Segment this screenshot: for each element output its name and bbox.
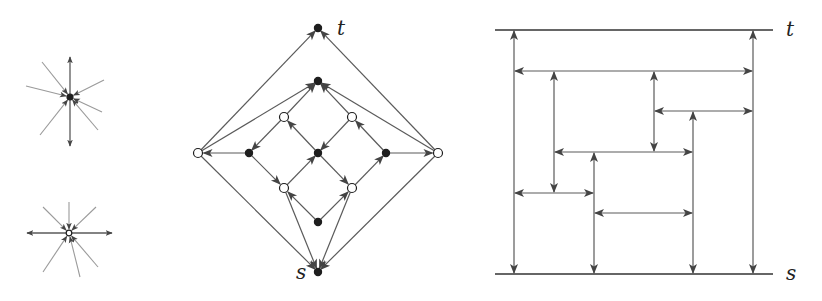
right-segment-diagram: ts (495, 17, 796, 285)
open-node (66, 230, 72, 236)
in-edge (72, 207, 96, 230)
in-edge (74, 80, 104, 95)
in-edge (72, 236, 98, 267)
node-t (314, 24, 321, 31)
filled-node (67, 94, 73, 100)
in-edge (70, 237, 80, 277)
edge-lr-to-s (320, 188, 352, 268)
node-top (314, 77, 321, 84)
star-open-center (27, 202, 112, 277)
edge-b-to-lr (318, 192, 348, 222)
in-edge (74, 99, 102, 112)
in-edge (40, 100, 68, 135)
in-edge (43, 207, 66, 230)
label-t-right: t (786, 17, 795, 41)
edge-lo-to-s (198, 153, 315, 269)
node-lo (194, 149, 203, 158)
node-lr (348, 184, 357, 193)
node-lf (245, 149, 252, 156)
node-b (314, 218, 321, 225)
in-edge (26, 86, 66, 96)
label-t: t (337, 16, 346, 40)
label-s-right: s (786, 261, 796, 285)
node-ul (280, 113, 289, 122)
edge-c-to-lr (318, 153, 348, 184)
edge-ur-to-c (321, 117, 352, 150)
node-ur (348, 113, 357, 122)
edge-ro-to-t (321, 31, 438, 153)
edge-lf-to-ll (249, 153, 280, 184)
label-s: s (296, 260, 306, 284)
middle-graph: ts (194, 16, 443, 284)
edge-b-to-ll (288, 192, 318, 222)
in-edge (43, 236, 67, 272)
edge-lo-to-top (198, 83, 315, 153)
edge-c-to-ul (288, 121, 318, 153)
node-c (314, 149, 321, 156)
edge-ur-to-top (321, 84, 352, 117)
edge-ul-to-top (284, 84, 315, 117)
node-ll (280, 184, 289, 193)
edge-lr-to-rf (352, 156, 383, 188)
edge-lo-to-t (198, 31, 315, 153)
diagram-canvas: ts ts (0, 0, 822, 301)
node-ro (434, 149, 443, 158)
in-edge (42, 62, 68, 94)
edge-ll-to-s (284, 188, 316, 268)
node-rf (382, 149, 389, 156)
edge-ro-to-s (321, 153, 438, 269)
star-filled-center (26, 57, 104, 146)
edge-ll-to-c (284, 156, 315, 188)
edge-ro-to-top (321, 83, 438, 153)
edge-ul-to-lf (252, 117, 284, 150)
left-star-diagrams (26, 57, 112, 277)
edge-rf-to-ur (356, 121, 386, 153)
node-s (314, 268, 321, 275)
